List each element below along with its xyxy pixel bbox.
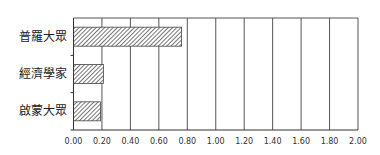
bar-chart: 普羅大眾經濟學家啟蒙大眾 0.000.200.400.600.801.001.2… bbox=[0, 0, 380, 155]
x-tick-label: 0.20 bbox=[93, 137, 111, 146]
bar bbox=[74, 65, 104, 84]
x-tick-label: 0.00 bbox=[65, 137, 83, 146]
x-tick-labels: 0.000.200.400.600.801.001.201.401.601.80… bbox=[65, 137, 367, 146]
category-label: 經濟學家 bbox=[19, 66, 67, 81]
x-tick-label: 1.80 bbox=[321, 137, 339, 146]
category-labels: 普羅大眾經濟學家啟蒙大眾 bbox=[19, 30, 67, 119]
x-tick-label: 2.00 bbox=[349, 137, 367, 146]
x-tick-label: 1.20 bbox=[235, 137, 253, 146]
bar bbox=[74, 102, 101, 121]
x-tick-label: 0.60 bbox=[150, 137, 168, 146]
x-tick-label: 0.80 bbox=[178, 137, 196, 146]
bar bbox=[74, 27, 182, 46]
x-tick-label: 1.00 bbox=[207, 137, 225, 146]
x-tick-label: 0.40 bbox=[121, 137, 139, 146]
category-label: 普羅大眾 bbox=[19, 30, 67, 44]
bars bbox=[74, 27, 182, 121]
x-tick-label: 1.60 bbox=[292, 137, 310, 146]
category-label: 啟蒙大眾 bbox=[19, 103, 67, 118]
x-tick-label: 1.40 bbox=[264, 137, 282, 146]
